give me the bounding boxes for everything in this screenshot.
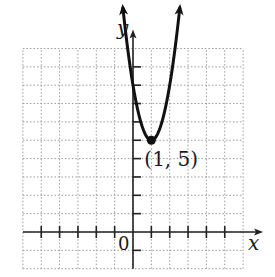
parabola-chart: (1, 5) x y 0 — [0, 0, 275, 277]
origin-label: 0 — [118, 233, 129, 254]
vertex-point — [147, 136, 156, 145]
curve-arrow-icons — [119, 4, 183, 15]
vertex-label: (1, 5) — [144, 147, 198, 171]
x-axis-label: x — [248, 231, 259, 255]
y-axis-label: y — [116, 16, 129, 40]
